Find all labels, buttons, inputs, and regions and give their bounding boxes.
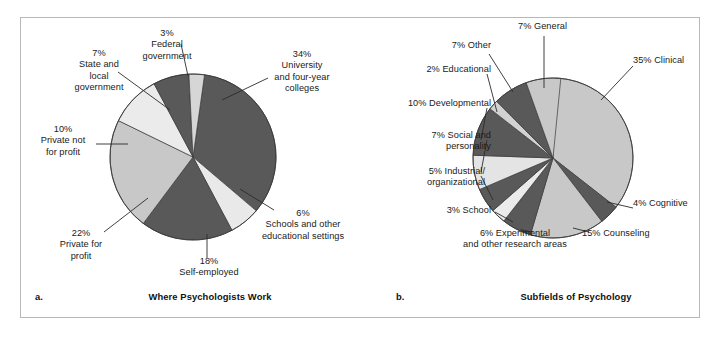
label-clinical: 35% Clinical (633, 55, 719, 66)
label-general: 7% General (518, 21, 608, 32)
panel-a-where-psychologists-work: 7% State and local government 3% Federal… (0, 0, 361, 339)
label-industrial-organizational: 5% Industrial/ organizational (367, 166, 485, 189)
label-social-and-personality: 7% Social and personality (369, 130, 491, 153)
label-private-for-profit: 22% Private for profit (35, 228, 127, 262)
panel-a-caption: Where Psychologists Work (105, 291, 315, 302)
label-other: 7% Other (399, 40, 491, 51)
label-cognitive: 4% Cognitive (633, 198, 719, 209)
label-experimental-and-other-research-areas: 6% Experimental and other research areas (445, 228, 585, 251)
leader-line (489, 54, 513, 92)
panel-b-subfields-of-psychology: 7% General 7% Other 2% Educational 10% D… (361, 0, 722, 339)
label-federal-government: 3% Federal government (127, 28, 207, 62)
label-university-and-four-year-colleges: 34% University and four-year colleges (252, 49, 352, 95)
panel-a-letter: a. (35, 291, 43, 302)
label-private-not-for-profit: 10% Private not for profit (16, 124, 110, 158)
label-developmental: 10% Developmental (353, 98, 491, 109)
panel-b-caption: Subfields of Psychology (471, 291, 681, 302)
label-self-employed: 18% Self-employed (160, 256, 258, 279)
label-school: 3% School (399, 205, 491, 216)
label-educational: 2% Educational (369, 64, 491, 75)
label-schools-and-other-educational-settings: 6% Schools and other educational setting… (244, 208, 362, 242)
panel-b-letter: b. (396, 291, 404, 302)
leader-line (601, 66, 633, 100)
figure-pie-charts: 7% State and local government 3% Federal… (0, 0, 722, 339)
label-counseling: 15% Counseling (582, 228, 692, 239)
